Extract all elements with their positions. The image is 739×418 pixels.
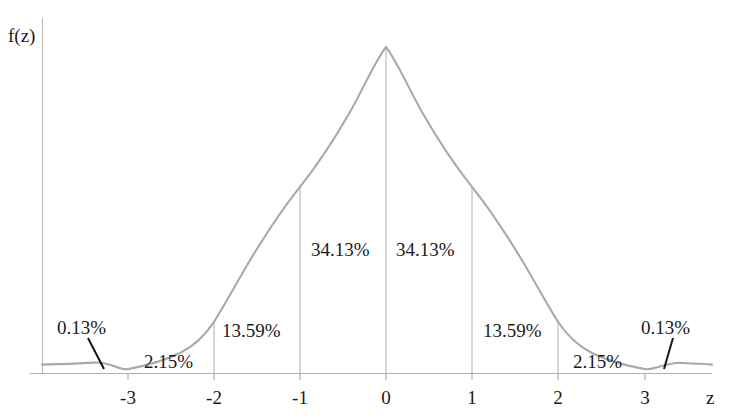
percent-label-outer-left: 0.13% [57, 318, 106, 337]
chart-canvas [0, 0, 739, 418]
x-tick-label-neg2: -2 [198, 388, 230, 407]
y-axis-label: f(z) [8, 26, 35, 45]
percent-label-1-to-2: 13.59% [483, 321, 542, 340]
x-tick-label-0: 0 [370, 388, 402, 407]
normal-curve [42, 47, 712, 369]
percent-label-neg2-to-neg1: 13.59% [222, 321, 281, 340]
x-tick-label-neg1: -1 [284, 388, 316, 407]
x-axis-ticks [128, 374, 645, 381]
x-tick-label-neg3: -3 [112, 388, 144, 407]
x-tick-label-3: 3 [629, 388, 661, 407]
percent-label-0-to-1: 34.13% [396, 240, 455, 259]
x-tick-label-2: 2 [542, 388, 574, 407]
normal-distribution-chart: f(z) z -3 -2 -1 0 1 2 3 0.13% 2.15% 13.5… [0, 0, 739, 418]
percent-label-neg1-to-0: 34.13% [311, 240, 370, 259]
percent-label-neg3-to-neg2: 2.15% [144, 352, 193, 371]
percent-label-outer-right: 0.13% [641, 318, 690, 337]
leader-line-left-outer-tail [88, 338, 104, 369]
x-tick-label-1: 1 [456, 388, 488, 407]
percent-label-2-to-3: 2.15% [573, 352, 622, 371]
x-axis-label: z [706, 388, 714, 407]
